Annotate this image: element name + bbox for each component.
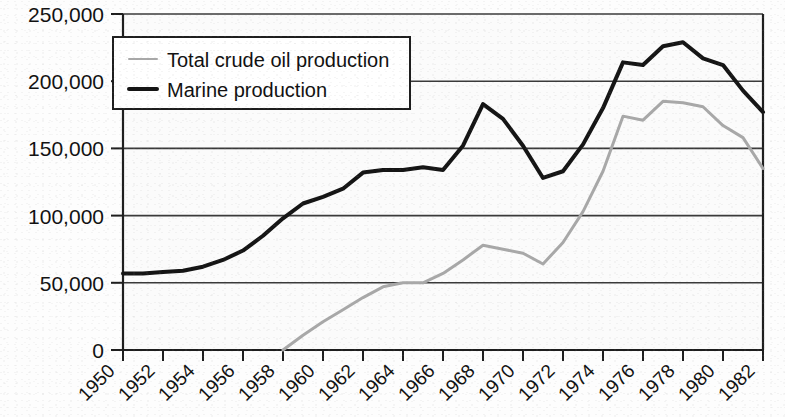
y-tick-label-0: 0 xyxy=(92,339,104,362)
x-tick-label-1976: 1976 xyxy=(594,360,639,405)
x-tick-label-1974: 1974 xyxy=(554,360,599,405)
x-tick-label-1962: 1962 xyxy=(314,360,359,405)
x-tick-label-1970: 1970 xyxy=(474,360,519,405)
chart-container: 250,000200,000150,000100,00050,000019501… xyxy=(0,0,785,417)
legend-label-1: Marine production xyxy=(167,79,327,101)
x-tick-label-1950: 1950 xyxy=(74,360,119,405)
x-tick-label-1982: 1982 xyxy=(714,360,759,405)
x-tick-label-1958: 1958 xyxy=(234,360,279,405)
x-tick-label-1960: 1960 xyxy=(274,360,319,405)
y-tick-label-100000: 100,000 xyxy=(28,205,104,228)
x-tick-label-1954: 1954 xyxy=(154,360,199,405)
x-tick-label-1952: 1952 xyxy=(114,360,159,405)
x-tick-label-1972: 1972 xyxy=(514,360,559,405)
y-tick-label-150000: 150,000 xyxy=(28,137,104,160)
x-tick-label-1980: 1980 xyxy=(674,360,719,405)
y-tick-label-50000: 50,000 xyxy=(40,272,104,295)
x-tick-label-1956: 1956 xyxy=(194,360,239,405)
legend-label-0: Total crude oil production xyxy=(167,49,389,71)
y-tick-label-200000: 200,000 xyxy=(28,70,104,93)
x-tick-label-1964: 1964 xyxy=(354,360,399,405)
x-tick-label-1978: 1978 xyxy=(634,360,679,405)
line-chart: 250,000200,000150,000100,00050,000019501… xyxy=(0,0,785,417)
y-tick-label-250000: 250,000 xyxy=(28,3,104,26)
x-tick-label-1968: 1968 xyxy=(434,360,479,405)
x-tick-label-1966: 1966 xyxy=(394,360,439,405)
